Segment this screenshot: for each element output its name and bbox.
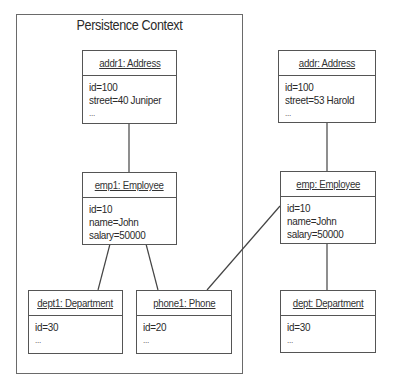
object-emp1-employee: emp1: Employee id=10 name=John salary=50… bbox=[82, 172, 177, 245]
field-id: id=30 bbox=[287, 321, 366, 334]
field-ellipsis: ... bbox=[143, 334, 222, 347]
field-salary: salary=50000 bbox=[287, 228, 366, 241]
field-id: id=10 bbox=[287, 202, 366, 215]
connector-emp-phone1 bbox=[207, 206, 280, 290]
object-fields: id=30 ... bbox=[281, 316, 375, 347]
object-title: addr1: Address bbox=[99, 57, 160, 69]
object-fields: id=10 name=John salary=50000 bbox=[281, 197, 375, 241]
field-id: id=100 bbox=[285, 81, 366, 94]
connector-emp1-phone1 bbox=[146, 244, 158, 290]
field-street: street=40 Juniper bbox=[89, 94, 167, 107]
object-fields: id=10 name=John salary=50000 bbox=[83, 198, 176, 242]
object-dept-department: dept: Department id=30 ... bbox=[280, 290, 376, 353]
object-header: phone1: Phone bbox=[137, 291, 231, 316]
object-addr1-address: addr1: Address id=100 street=40 Juniper … bbox=[82, 50, 177, 124]
object-title: addr: Address bbox=[299, 57, 355, 69]
object-title: emp1: Employee bbox=[95, 179, 164, 191]
object-header: addr1: Address bbox=[83, 51, 176, 76]
object-fields: id=20 ... bbox=[137, 316, 231, 347]
object-phone1-phone: phone1: Phone id=20 ... bbox=[136, 290, 232, 354]
field-ellipsis: ... bbox=[35, 334, 113, 347]
object-title: phone1: Phone bbox=[153, 297, 215, 309]
object-title: dept: Department bbox=[293, 297, 364, 309]
object-header: dept1: Department bbox=[29, 291, 122, 316]
object-fields: id=30 ... bbox=[29, 316, 122, 347]
object-title: emp: Employee bbox=[296, 178, 360, 190]
field-salary: salary=50000 bbox=[89, 229, 167, 242]
object-header: emp1: Employee bbox=[83, 173, 176, 198]
object-addr-address: addr: Address id=100 street=53 Harold ..… bbox=[278, 50, 376, 123]
field-ellipsis: ... bbox=[89, 107, 167, 120]
object-dept1-department: dept1: Department id=30 ... bbox=[28, 290, 123, 354]
field-street: street=53 Harold bbox=[285, 94, 366, 107]
object-header: dept: Department bbox=[281, 291, 375, 316]
field-id: id=100 bbox=[89, 81, 167, 94]
field-id: id=20 bbox=[143, 321, 222, 334]
object-fields: id=100 street=53 Harold ... bbox=[279, 76, 375, 120]
object-header: addr: Address bbox=[279, 51, 375, 76]
field-id: id=10 bbox=[89, 203, 167, 216]
object-title: dept1: Department bbox=[38, 297, 114, 309]
object-header: emp: Employee bbox=[281, 172, 375, 197]
field-id: id=30 bbox=[35, 321, 113, 334]
object-fields: id=100 street=40 Juniper ... bbox=[83, 76, 176, 120]
field-ellipsis: ... bbox=[287, 334, 366, 347]
object-emp-employee: emp: Employee id=10 name=John salary=500… bbox=[280, 171, 376, 244]
field-name: name=John bbox=[89, 216, 167, 229]
field-name: name=John bbox=[287, 215, 366, 228]
object-diagram: Persistence Context addr1: Address id=10… bbox=[0, 0, 394, 387]
connector-emp1-dept1 bbox=[98, 244, 110, 290]
field-ellipsis: ... bbox=[285, 107, 366, 120]
